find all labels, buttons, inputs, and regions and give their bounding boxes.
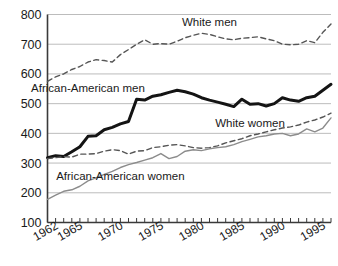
y-tick-label-600: 600 <box>21 67 42 81</box>
y-tick-label-200: 200 <box>21 186 42 200</box>
y-tick-label-700: 700 <box>21 38 42 52</box>
y-tick-label-500: 500 <box>21 97 42 111</box>
y-tick-label-400: 400 <box>21 127 42 141</box>
line-chart: 100200300400500600700800 196219651970197… <box>0 0 338 266</box>
series-label-white-men: White men <box>182 16 237 28</box>
y-tick-label-300: 300 <box>21 157 42 171</box>
series-label-white-women: White women <box>215 117 285 129</box>
series-label-african-american-women: African-American women <box>56 170 184 182</box>
series-label-african-american-men: African-American men <box>31 82 145 94</box>
chart-container: 100200300400500600700800 196219651970197… <box>0 0 338 266</box>
y-tick-label-800: 800 <box>21 8 42 22</box>
